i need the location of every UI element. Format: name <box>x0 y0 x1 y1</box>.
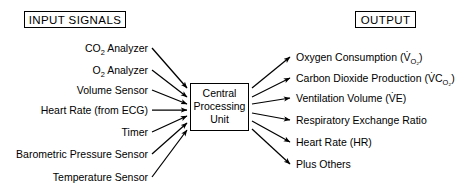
output-label-carbon-dioxide-production: Carbon Dioxide Production (V̇CO₂) <box>296 72 455 87</box>
input-label-heart-rate-ecg: Heart Rate (from ECG) <box>41 104 148 116</box>
input-label-timer: Timer <box>122 126 149 138</box>
input-label-o2-analyzer: O2 Analyzer <box>93 64 149 79</box>
output-1-symbol: V̇ <box>428 72 435 84</box>
input-label-volume-sensor: Volume Sensor <box>77 84 149 96</box>
input-arrow-co2-analyzer <box>152 48 187 88</box>
output-1-suffix: ) <box>451 72 455 84</box>
input-arrow-temperature-sensor <box>152 130 187 177</box>
input-1-base: O <box>93 64 101 76</box>
input-arrow-volume-sensor <box>152 90 187 104</box>
input-label-barometric-pressure-sensor: Barometric Pressure Sensor <box>16 148 148 160</box>
input-arrow-timer <box>152 116 187 132</box>
output-0-suffix: ) <box>419 51 423 63</box>
input-label-temperature-sensor: Temperature Sensor <box>53 171 149 183</box>
central-node-line2: Processing <box>194 100 246 112</box>
central-node-line3: Unit <box>210 113 229 125</box>
output-2-suffix: ) <box>403 92 407 104</box>
diagram-canvas: INPUT SIGNALS OUTPUT Central Processing … <box>0 0 471 189</box>
input-1-tail: Analyzer <box>105 64 149 76</box>
output-label-oxygen-consumption: Oxygen Consumption (V̇O₂) <box>296 51 423 66</box>
input-label-co2-analyzer: CO2 Analyzer <box>85 42 149 57</box>
output-1-prefix: Carbon Dioxide Production ( <box>296 72 428 84</box>
input-0-base: CO <box>85 42 101 54</box>
output-2-symtail: E <box>396 92 403 104</box>
output-2-symbol: V̇ <box>389 92 396 104</box>
output-label-ventilation-volume: Ventilation Volume (V̇E) <box>296 92 406 104</box>
output-arrow-oxygen-consumption <box>252 57 290 88</box>
central-node-line1: Central <box>203 87 237 99</box>
output-arrow-ventilation-volume <box>252 98 290 104</box>
output-arrow-heart-rate <box>252 121 290 142</box>
input-arrow-o2-analyzer <box>152 70 187 97</box>
output-label-plus-others: Plus Others <box>296 158 351 170</box>
flow-diagram-svg: INPUT SIGNALS OUTPUT Central Processing … <box>0 0 471 189</box>
output-arrow-respiratory-exchange-ratio <box>252 113 290 120</box>
input-signals-header-label: INPUT SIGNALS <box>29 14 122 26</box>
output-1-sub: O₂ <box>443 78 452 87</box>
output-0-prefix: Oxygen Consumption ( <box>296 51 404 63</box>
output-0-symbol: V̇ <box>403 51 410 63</box>
output-0-sub: O₂ <box>410 57 419 66</box>
input-0-tail: Analyzer <box>105 42 149 54</box>
output-label-heart-rate: Heart Rate (HR) <box>296 136 372 148</box>
output-header-label: OUTPUT <box>361 14 411 26</box>
output-arrow-co2-production <box>252 78 290 97</box>
output-label-respiratory-exchange-ratio: Respiratory Exchange Ratio <box>296 114 427 126</box>
output-2-prefix: Ventilation Volume ( <box>296 92 389 104</box>
output-arrow-plus-others <box>252 129 290 164</box>
input-arrow-barometric-pressure <box>152 123 187 154</box>
